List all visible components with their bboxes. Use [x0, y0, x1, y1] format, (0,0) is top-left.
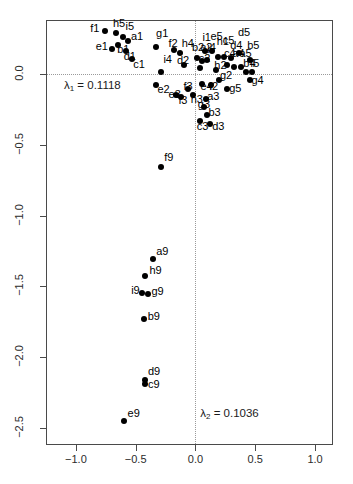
y-tick-mark: [40, 428, 46, 429]
vertical-reference-line: [195, 21, 196, 444]
data-point: [153, 44, 159, 50]
annotation-lambda2: λ2 = 0.1036: [200, 407, 258, 419]
point-label: h9: [149, 265, 161, 276]
point-label: i4: [163, 54, 172, 65]
point-label: i9: [131, 285, 140, 296]
y-tick-label: −2.0: [13, 339, 25, 373]
y-tick-mark: [40, 74, 46, 75]
point-label: i3: [179, 95, 188, 106]
x-tick-label: −1.0: [53, 453, 99, 465]
point-label: b5: [247, 40, 259, 51]
y-tick-mark: [40, 357, 46, 358]
y-tick-label: 0.0: [13, 56, 25, 90]
point-label: b9: [148, 311, 160, 322]
data-point: [150, 256, 156, 262]
point-label: c1: [133, 59, 145, 70]
point-label: g4: [251, 75, 263, 86]
point-label: h5: [113, 18, 125, 29]
data-point: [121, 418, 127, 424]
point-label: g5: [229, 83, 241, 94]
point-label: f1: [90, 23, 99, 34]
data-point: [141, 316, 147, 322]
point-label: f3: [184, 81, 193, 92]
point-label: c9: [148, 379, 160, 390]
point-label: d3: [212, 121, 224, 132]
point-label: e1: [96, 41, 108, 52]
x-tick-mark: [315, 445, 316, 451]
point-label: g9: [151, 286, 163, 297]
y-tick-mark: [40, 145, 46, 146]
x-tick-label: 0.0: [172, 453, 218, 465]
point-label: c2: [199, 53, 211, 64]
x-tick-mark: [76, 445, 77, 451]
y-tick-label: −2.5: [13, 410, 25, 444]
data-point: [145, 291, 151, 297]
y-tick-mark: [40, 216, 46, 217]
point-label: f5: [250, 58, 259, 69]
annotation-lambda1: λ1 = 0.1118: [64, 79, 121, 91]
scatter-plot-figure: −1.0−0.50.00.51.0 0.0−0.5−1.0−1.5−2.0−2.…: [0, 0, 353, 484]
point-label: a9: [156, 246, 168, 257]
x-tick-mark: [255, 445, 256, 451]
x-tick-mark: [136, 445, 137, 451]
point-label: d2: [177, 55, 189, 66]
x-tick-label: 0.5: [232, 453, 278, 465]
horizontal-reference-line: [47, 74, 332, 75]
point-label: d5: [238, 27, 250, 38]
x-tick-label: −0.5: [113, 453, 159, 465]
y-tick-label: −1.5: [13, 268, 25, 302]
x-tick-mark: [195, 445, 196, 451]
point-label: b3: [208, 107, 220, 118]
data-point: [109, 46, 115, 52]
y-tick-label: −1.0: [13, 198, 25, 232]
point-label: d9: [148, 366, 160, 377]
point-label: f2: [169, 38, 178, 49]
x-tick-label: 1.0: [292, 453, 338, 465]
y-tick-mark: [40, 286, 46, 287]
point-label: f9: [164, 152, 173, 163]
point-label: g2: [220, 70, 232, 81]
point-label: a1: [131, 31, 143, 42]
data-point: [243, 69, 249, 75]
point-label: e9: [128, 408, 140, 419]
y-tick-label: −0.5: [13, 127, 25, 161]
point-label: g1: [156, 28, 168, 39]
